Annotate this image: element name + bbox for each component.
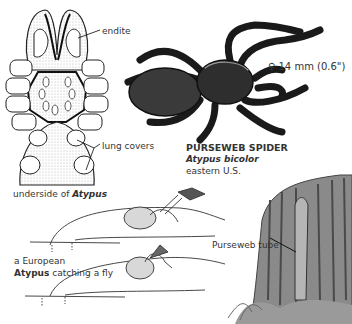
endite-label: endite <box>102 26 131 37</box>
behavior-caption-line2: Atypus catching a fly <box>14 268 113 279</box>
spider-illustration <box>128 25 320 140</box>
size-label: ♀ 14 mm (0.6") <box>268 61 345 72</box>
common-name: PURSEWEB SPIDER <box>186 142 288 153</box>
lung-covers-label: lung covers <box>102 141 154 152</box>
range-label: eastern U.S. <box>186 166 241 177</box>
underside-caption: underside of Atypus <box>13 189 107 200</box>
underside-caption-genus: Atypus <box>72 189 107 199</box>
purseweb-tube-label: Purseweb tube <box>212 240 279 251</box>
behavior-caption-line1: a European <box>14 256 65 267</box>
scientific-name: Atypus bicolor <box>186 154 259 165</box>
behavior-caption-rest: catching a fly <box>49 268 113 278</box>
purseweb-scene-illustration <box>25 188 225 306</box>
behavior-caption-genus: Atypus <box>14 268 49 278</box>
underside-caption-prefix: underside of <box>13 189 72 199</box>
